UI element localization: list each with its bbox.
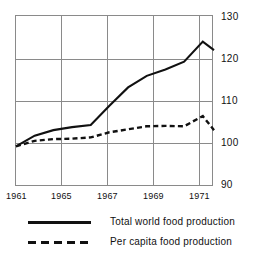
ytick-label-90: 90 — [221, 180, 233, 190]
legend-swatch-solid-icon — [28, 221, 91, 224]
xtick-label-1961: 1961 — [6, 192, 27, 201]
legend-label-per-capita-food-production: Per capita food production — [110, 235, 232, 248]
legend-label-total-world-food-production: Total world food production — [110, 215, 235, 228]
series-line-per-capita-food-production — [16, 116, 214, 146]
ytick-label-110: 110 — [221, 96, 238, 106]
chart-plot-lines — [16, 16, 214, 187]
legend-item-total-world-food-production: Total world food production — [0, 213, 267, 233]
xtick-label-1971: 1971 — [189, 192, 210, 201]
xtick-label-1969: 1969 — [143, 192, 164, 201]
ytick-label-130: 130 — [221, 12, 239, 22]
chart-legend: Total world food production Per capita f… — [0, 213, 267, 253]
legend-item-per-capita-food-production: Per capita food production — [0, 233, 267, 253]
xtick-label-1967: 1967 — [97, 192, 118, 201]
plot-area — [15, 15, 213, 186]
chart-figure: 130 120 110 100 90 1961 1965 1967 1969 1… — [0, 0, 267, 253]
ytick-label-120: 120 — [221, 54, 239, 64]
legend-swatch-dashed-icon — [28, 241, 91, 244]
xtick-label-1965: 1965 — [51, 192, 72, 201]
ytick-label-100: 100 — [221, 138, 239, 148]
